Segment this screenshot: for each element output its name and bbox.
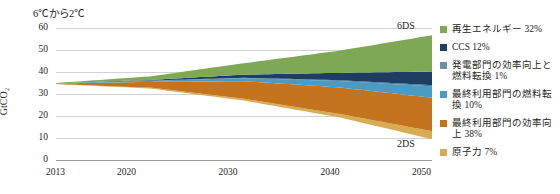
y-tick-label-10: 10 [22, 133, 48, 143]
y-tick-label-20: 20 [22, 111, 48, 121]
legend-swatch-icon [440, 149, 447, 156]
legend-item[interactable]: 再生エネルギー 32% [440, 24, 560, 35]
legend-swatch-icon [440, 120, 447, 127]
chart-container: 6℃から2℃ GtCO₂ 0102030405060 2013202020302… [0, 0, 560, 194]
chart-legend: 再生エネルギー 32%CCS 12%発電部門の効率向上と燃料転換 1%最終利用部… [440, 0, 560, 194]
legend-item-label: 再生エネルギー 32% [452, 24, 542, 35]
y-tick-label-30: 30 [22, 89, 48, 99]
legend-item[interactable]: 最終利用部門の燃料転換 10% [440, 89, 560, 111]
legend-item[interactable]: CCS 12% [440, 42, 560, 53]
legend-item[interactable]: 発電部門の効率向上と燃料転換 1% [440, 60, 560, 82]
annotation-2ds: 2DS [397, 139, 415, 149]
legend-swatch-icon [440, 91, 447, 98]
legend-swatch-icon [440, 62, 447, 69]
y-tick-label-0: 0 [22, 155, 48, 165]
legend-item-label: 最終利用部門の燃料転換 10% [452, 89, 560, 111]
legend-item-label: 原子力 7% [452, 147, 497, 158]
y-tick-label-40: 40 [22, 67, 48, 77]
annotation-6ds: 6DS [397, 21, 415, 31]
legend-item[interactable]: 原子力 7% [440, 147, 560, 158]
y-tick-label-50: 50 [22, 45, 48, 55]
area-svg [56, 0, 432, 194]
legend-swatch-icon [440, 44, 447, 51]
plot-area: 6℃から2℃ GtCO₂ 0102030405060 2013202020302… [0, 0, 440, 194]
legend-item[interactable]: 最終利用部門の効率向上 38% [440, 118, 560, 140]
y-tick-label-60: 60 [22, 23, 48, 33]
legend-item-label: 発電部門の効率向上と燃料転換 1% [452, 60, 560, 82]
legend-item-label: 最終利用部門の効率向上 38% [452, 118, 560, 140]
legend-swatch-icon [440, 26, 447, 33]
legend-item-label: CCS 12% [452, 42, 490, 53]
stacked-area-bands [56, 0, 432, 194]
